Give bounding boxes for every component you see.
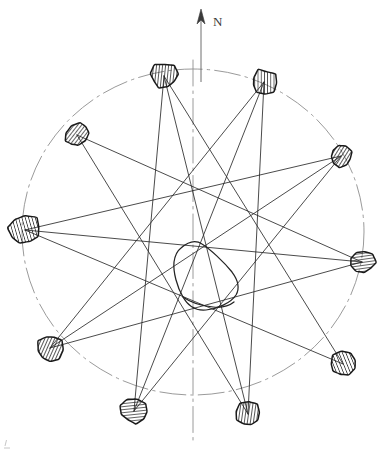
diagram-canvas: N <box>0 0 388 455</box>
sight-line-s7-s4 <box>50 156 341 348</box>
station-hatched-shape <box>350 251 377 274</box>
sight-line-s10-s1 <box>164 76 248 414</box>
station-hatched-shape <box>149 62 179 89</box>
station-hatched-shape <box>329 348 358 378</box>
station-north-east-upper[interactable] <box>252 69 278 96</box>
station-hatched-shape <box>252 69 278 96</box>
station-south-west-lower[interactable] <box>118 397 148 425</box>
corner-registration-tick <box>4 440 10 448</box>
survey-diagram: N <box>0 0 388 455</box>
sight-line-s2-s7 <box>50 82 264 348</box>
station-hatched-shape <box>328 143 353 171</box>
station-west-lower[interactable] <box>34 334 65 363</box>
station-west-upper[interactable] <box>60 119 92 150</box>
sight-line-s6-s7 <box>50 262 362 348</box>
central-outline-group <box>174 242 238 310</box>
station-hatched-shape <box>6 214 40 245</box>
station-east-upper[interactable] <box>328 143 353 171</box>
sight-line-s3-s6 <box>77 135 362 262</box>
north-label: N <box>213 14 223 29</box>
sight-line-s5-s6 <box>25 230 362 262</box>
central-closed-curve <box>174 242 238 310</box>
station-east-middle[interactable] <box>350 251 377 274</box>
corner-mark-group <box>4 440 10 448</box>
sight-line-s9-s2 <box>134 82 264 411</box>
station-east-lower[interactable] <box>329 348 358 378</box>
station-hatched-shape <box>34 334 65 363</box>
station-hatched-shape <box>235 401 260 426</box>
station-north-west-upper[interactable] <box>149 62 179 89</box>
station-south-east-lower[interactable] <box>235 401 260 426</box>
sight-line-s4-s5 <box>25 156 341 230</box>
station-hatched-shape <box>118 397 148 425</box>
station-west-middle[interactable] <box>6 214 40 245</box>
sight-line-s3-s10 <box>77 135 248 414</box>
station-hatched-shape <box>60 119 92 150</box>
sight-line-s1-s9 <box>134 76 164 411</box>
sight-line-s2-s10 <box>248 82 264 414</box>
